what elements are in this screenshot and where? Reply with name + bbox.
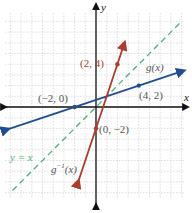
y-axis-label: y <box>100 1 106 13</box>
grid-lines <box>5 13 184 198</box>
label-neg2-0: (−2, 0) <box>38 92 68 105</box>
function-inverse-graph: x y (−2, 0) (4, 2) (2, 4) (0, −2) g(x) y… <box>0 0 192 213</box>
label-0-neg2: (0, −2) <box>99 123 129 136</box>
label-4-2: (4, 2) <box>139 89 163 102</box>
label-g-inverse: g−1(x) <box>51 162 77 176</box>
point-4-2 <box>137 83 141 87</box>
point-0-neg2 <box>94 126 98 130</box>
point-2-4 <box>115 62 119 66</box>
label-2-4: (2, 4) <box>80 57 104 70</box>
label-identity: y = x <box>9 151 33 163</box>
label-g: g(x) <box>146 61 164 74</box>
x-axis-label: x <box>183 91 189 103</box>
point-neg2-0 <box>72 105 76 109</box>
